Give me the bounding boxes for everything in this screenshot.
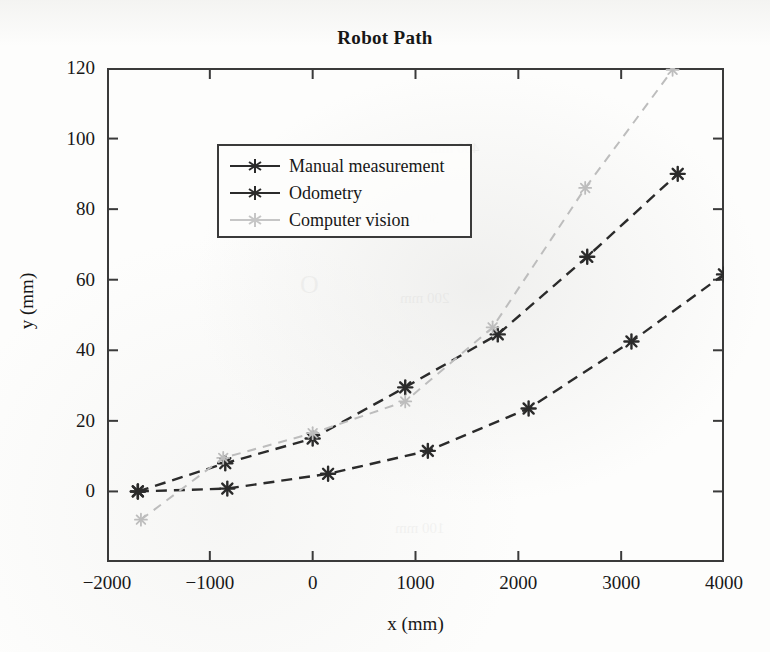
legend-label: Manual measurement	[289, 157, 444, 175]
x-axis-ticks	[107, 69, 724, 561]
chart-legend: Manual measurement Odometry	[217, 144, 472, 238]
plot-area: −2000−100001000200030004000 020406080100…	[107, 68, 724, 562]
x-tick-label: 2000	[499, 572, 537, 594]
legend-line-sample-icon	[228, 183, 282, 203]
y-tick-label: 120	[67, 57, 96, 79]
y-axis-title: y (mm)	[16, 241, 38, 361]
x-tick-label: 1000	[397, 572, 435, 594]
data-series-layer	[131, 68, 724, 526]
legend-line-sample-icon	[228, 156, 282, 176]
legend-item-computer-vision: Computer vision	[219, 206, 470, 233]
x-tick-label: 0	[308, 572, 318, 594]
y-tick-label: 80	[76, 198, 95, 220]
y-tick-label: 20	[76, 410, 95, 432]
chart-title: Robot Path	[0, 27, 770, 49]
legend-label: Computer vision	[289, 211, 410, 229]
y-axis-ticks	[108, 68, 723, 491]
series-computer-vision	[135, 68, 679, 526]
x-tick-label: −1000	[185, 572, 234, 594]
y-tick-label: 40	[76, 339, 95, 361]
x-axis-title: x (mm)	[107, 613, 724, 635]
y-tick-label: 0	[86, 480, 96, 502]
legend-line-sample-icon	[228, 210, 282, 230]
legend-item-manual-measurement: Manual measurement	[219, 152, 470, 179]
x-tick-label: 4000	[705, 572, 743, 594]
y-tick-label: 60	[76, 269, 95, 291]
plot-canvas	[107, 68, 724, 562]
legend-item-odometry: Odometry	[219, 179, 470, 206]
legend-label: Odometry	[289, 184, 362, 202]
x-tick-label: −2000	[83, 572, 132, 594]
robot-path-figure: Robot Path −2000−100001000200030004000 0…	[0, 0, 770, 652]
axes-frame	[108, 69, 723, 561]
x-tick-label: 3000	[602, 572, 640, 594]
y-tick-label: 100	[67, 128, 96, 150]
